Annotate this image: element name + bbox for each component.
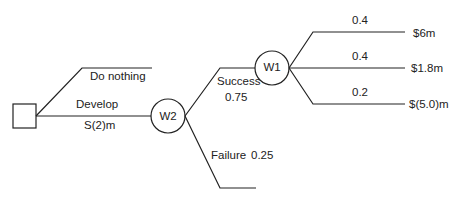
success-label: Success	[217, 75, 260, 88]
outcome-3-probability: 0.2	[352, 86, 368, 99]
do-nothing-label: Do nothing	[90, 70, 146, 83]
outcome-3-payoff: $(5.0)m	[409, 98, 449, 111]
chance-node-w2-label: W2	[151, 110, 185, 123]
decision-tree-diagram: Do nothing Develop S(2)m W2 W1 Success 0…	[0, 0, 457, 203]
develop-label: Develop	[76, 98, 118, 111]
develop-cost-label: S(2)m	[84, 119, 115, 132]
failure-label: Failure	[211, 149, 246, 162]
outcome-1-payoff: $6m	[413, 27, 435, 40]
chance-node-w1-label: W1	[255, 61, 289, 74]
decision-node-square	[13, 104, 36, 128]
outcome-1-line	[289, 32, 405, 68]
outcome-1-probability: 0.4	[352, 14, 368, 27]
success-probability: 0.75	[225, 91, 247, 104]
outcome-3-line	[289, 68, 405, 104]
failure-probability: 0.25	[251, 149, 273, 162]
outcome-2-payoff: $1.8m	[411, 62, 443, 75]
outcome-2-probability: 0.4	[352, 50, 368, 63]
